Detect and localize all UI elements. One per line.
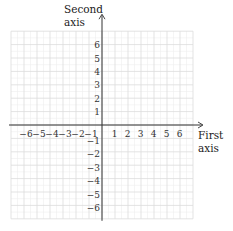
x-tick-label: 5 [164, 129, 170, 139]
x-tick-label: 1 [112, 129, 118, 139]
y-tick-label: −6 [87, 203, 101, 213]
x-axis-title-line1: First [198, 129, 224, 141]
y-tick-label: 1 [94, 107, 100, 117]
y-tick-label: −5 [87, 190, 101, 200]
y-tick-label: −2 [87, 149, 100, 159]
x-tick-label: −4 [45, 129, 59, 139]
x-tick-label: −5 [32, 129, 46, 139]
y-tick-label: −4 [87, 176, 101, 186]
coordinate-plane: −6−5−4−3−2−1123456654321−1−2−3−4−5−6 Sec… [0, 0, 233, 231]
y-tick-label: −3 [87, 163, 101, 173]
y-tick-label: 2 [94, 94, 100, 104]
y-tick-label: 5 [94, 54, 100, 64]
x-axis-title-line2: axis [198, 142, 219, 154]
tick-labels: −6−5−4−3−2−1123456654321−1−2−3−4−5−6 [19, 40, 182, 213]
y-axis-title-line2: axis [64, 16, 85, 28]
y-axis-title-line1: Second [64, 3, 103, 15]
x-tick-label: 2 [125, 129, 131, 139]
y-tick-label: −1 [87, 136, 100, 146]
x-tick-label: −2 [71, 129, 84, 139]
x-tick-label: −3 [58, 129, 72, 139]
x-tick-label: 3 [138, 129, 144, 139]
y-tick-label: 3 [94, 80, 100, 90]
y-tick-label: 4 [94, 67, 100, 77]
x-tick-label: −6 [19, 129, 33, 139]
axes [9, 14, 203, 221]
y-tick-label: 6 [94, 40, 100, 50]
x-tick-label: 4 [151, 129, 157, 139]
x-tick-label: 6 [177, 129, 183, 139]
